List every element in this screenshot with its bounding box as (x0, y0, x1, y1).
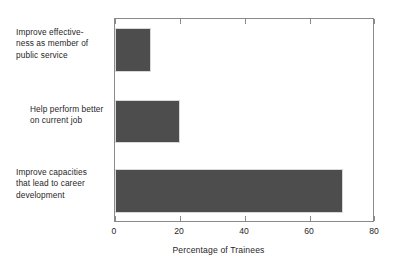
x-axis-title-text: Percentage of Trainees (172, 245, 264, 255)
x-tick-label: 60 (304, 226, 314, 236)
bar-improve-effectiveness (115, 28, 151, 72)
x-tick-label: 40 (239, 226, 249, 236)
x-tick-top (245, 19, 246, 24)
category-label-help-perform-better: Help perform better on current job (30, 104, 126, 127)
x-tick-label: 20 (174, 226, 184, 236)
x-tick-bottom (374, 216, 375, 221)
x-tick-label: 80 (369, 226, 379, 236)
x-tick-top (374, 19, 375, 24)
x-tick-bottom (180, 216, 181, 221)
bar-chart-figure: Improve effective- ness as member of pub… (0, 0, 397, 270)
x-tick-top (115, 19, 116, 24)
category-label-improve-effectiveness: Improve effective- ness as member of pub… (16, 27, 112, 61)
x-tick-top (310, 19, 311, 24)
plot-area (114, 18, 374, 222)
x-tick-bottom (115, 216, 116, 221)
bar-improve-capacities (115, 169, 343, 213)
category-label-improve-capacities: Improve capacities that lead to career d… (16, 167, 112, 201)
x-tick-label: 0 (112, 226, 117, 236)
x-tick-bottom (245, 216, 246, 221)
x-axis-title: Percentage of Trainees (0, 245, 397, 255)
x-tick-bottom (310, 216, 311, 221)
bar-help-perform-better (115, 100, 180, 143)
x-tick-top (180, 19, 181, 24)
